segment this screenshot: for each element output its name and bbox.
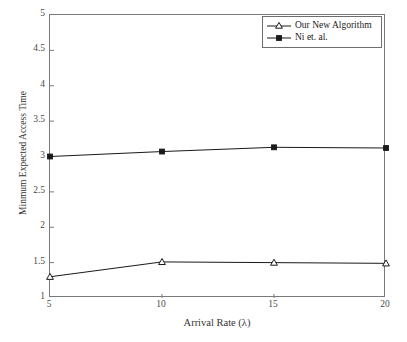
legend-item: Our New Algorithm xyxy=(266,20,377,32)
y-axis-label: Minmum Expected Access Time xyxy=(18,43,28,263)
legend-item-label: Ni et. al. xyxy=(295,33,328,43)
y-axis-tick-label: 4.5 xyxy=(33,44,45,54)
x-axis-tick-label: 10 xyxy=(156,300,166,310)
data-point-square xyxy=(384,146,389,151)
x-axis-tick-label: 20 xyxy=(380,300,390,310)
legend-item: Ni et. al. xyxy=(266,32,377,44)
legend-item-label: Our New Algorithm xyxy=(295,21,372,31)
y-axis-tick-label: 5 xyxy=(40,9,45,19)
y-axis-tick-label: 3 xyxy=(40,151,45,161)
x-axis-tick-label: 15 xyxy=(268,300,278,310)
y-axis-tick-label: 1.5 xyxy=(33,257,45,267)
data-point-square xyxy=(48,154,53,159)
y-axis-tick-label: 4 xyxy=(40,80,45,90)
data-point-square xyxy=(272,145,277,150)
legend: Our New Algorithm Ni et. al. xyxy=(262,16,382,48)
y-axis-tick-label: 2 xyxy=(40,221,45,231)
x-axis-label: Arrival Rate (λ) xyxy=(49,317,385,328)
square-filled-icon xyxy=(266,32,292,44)
plot-area xyxy=(49,14,385,297)
series-line xyxy=(50,147,386,156)
chart-figure: 11.522.533.544.55 Minmum Expected Access… xyxy=(0,0,407,342)
data-point-square xyxy=(160,149,165,154)
series-line xyxy=(50,262,386,277)
y-axis-tick-label: 3.5 xyxy=(33,115,45,125)
y-axis-tick-label: 2.5 xyxy=(33,186,45,196)
series-layer xyxy=(50,15,386,298)
x-axis-tick-labels: 5101520 xyxy=(0,300,407,314)
x-axis-tick-label: 5 xyxy=(47,300,52,310)
triangle-open-icon xyxy=(266,20,292,32)
